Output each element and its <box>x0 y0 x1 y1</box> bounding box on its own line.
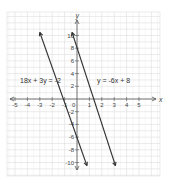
y-tick-label: -2 <box>69 109 75 115</box>
x-axis-label: x <box>158 96 163 103</box>
x-tick-label: -5 <box>12 102 18 108</box>
y-tick-label: -8 <box>69 147 75 153</box>
x-tick-label: -4 <box>25 102 31 108</box>
equation-label-1: 18x + 3y = -2 <box>20 77 61 84</box>
y-tick-label: -6 <box>69 134 75 140</box>
y-axis-label: y <box>75 12 80 20</box>
x-tick-label: -3 <box>37 102 43 108</box>
grid-background <box>7 12 160 176</box>
x-tick-label: -2 <box>50 102 56 108</box>
y-tick-label: -10 <box>65 160 74 166</box>
coordinate-plane: xy-5-4-3-2-1012345108642-2-4-6-8-10 <box>0 0 173 177</box>
equation-label-2: y = -6x + 8 <box>97 77 130 84</box>
